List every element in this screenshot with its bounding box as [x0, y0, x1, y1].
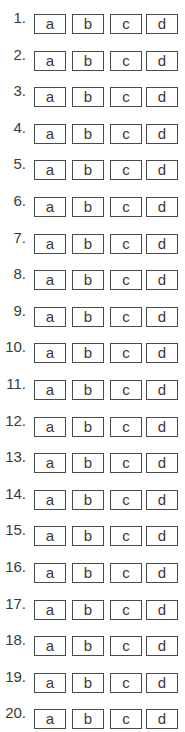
question-number: 3.: [0, 81, 26, 101]
answer-option-d[interactable]: d: [146, 636, 178, 656]
answer-option-b[interactable]: b: [72, 709, 104, 729]
answer-option-d[interactable]: d: [146, 490, 178, 510]
question-number: 20.: [0, 703, 26, 723]
answer-option-d[interactable]: d: [146, 14, 178, 34]
answer-option-d[interactable]: d: [146, 673, 178, 693]
question-row: 12.abcd: [0, 417, 185, 439]
answer-option-a[interactable]: a: [34, 197, 66, 217]
answer-option-c[interactable]: c: [110, 87, 142, 107]
answer-option-a[interactable]: a: [34, 270, 66, 290]
answer-option-b[interactable]: b: [72, 380, 104, 400]
answer-option-b[interactable]: b: [72, 600, 104, 620]
answer-option-a[interactable]: a: [34, 307, 66, 327]
answer-option-a[interactable]: a: [34, 453, 66, 473]
question-number: 14.: [0, 484, 26, 504]
question-number: 9.: [0, 301, 26, 321]
question-row: 18.abcd: [0, 636, 185, 658]
question-row: 14.abcd: [0, 490, 185, 512]
answer-option-c[interactable]: c: [110, 636, 142, 656]
answer-option-a[interactable]: a: [34, 14, 66, 34]
answer-option-a[interactable]: a: [34, 87, 66, 107]
answer-option-c[interactable]: c: [110, 709, 142, 729]
answer-option-b[interactable]: b: [72, 563, 104, 583]
answer-option-c[interactable]: c: [110, 380, 142, 400]
answer-option-c[interactable]: c: [110, 563, 142, 583]
question-number: 15.: [0, 520, 26, 540]
question-number: 19.: [0, 667, 26, 687]
answer-option-d[interactable]: d: [146, 87, 178, 107]
answer-option-c[interactable]: c: [110, 526, 142, 546]
answer-option-d[interactable]: d: [146, 563, 178, 583]
answer-option-c[interactable]: c: [110, 673, 142, 693]
answer-option-b[interactable]: b: [72, 124, 104, 144]
answer-option-d[interactable]: d: [146, 600, 178, 620]
answer-option-a[interactable]: a: [34, 636, 66, 656]
answer-option-d[interactable]: d: [146, 417, 178, 437]
answer-option-b[interactable]: b: [72, 197, 104, 217]
answer-option-a[interactable]: a: [34, 673, 66, 693]
question-row: 15.abcd: [0, 526, 185, 548]
question-row: 16.abcd: [0, 563, 185, 585]
answer-option-c[interactable]: c: [110, 270, 142, 290]
answer-option-c[interactable]: c: [110, 453, 142, 473]
question-number: 12.: [0, 411, 26, 431]
question-row: 4.abcd: [0, 124, 185, 146]
answer-option-b[interactable]: b: [72, 307, 104, 327]
answer-option-b[interactable]: b: [72, 673, 104, 693]
question-row: 3.abcd: [0, 87, 185, 109]
answer-option-a[interactable]: a: [34, 417, 66, 437]
answer-option-d[interactable]: d: [146, 526, 178, 546]
answer-option-c[interactable]: c: [110, 160, 142, 180]
answer-option-d[interactable]: d: [146, 197, 178, 217]
answer-option-b[interactable]: b: [72, 51, 104, 71]
question-row: 6.abcd: [0, 197, 185, 219]
question-row: 2.abcd: [0, 51, 185, 73]
answer-option-a[interactable]: a: [34, 160, 66, 180]
answer-option-d[interactable]: d: [146, 234, 178, 254]
answer-option-a[interactable]: a: [34, 380, 66, 400]
answer-option-c[interactable]: c: [110, 343, 142, 363]
answer-option-d[interactable]: d: [146, 709, 178, 729]
answer-option-b[interactable]: b: [72, 526, 104, 546]
answer-option-c[interactable]: c: [110, 197, 142, 217]
answer-option-a[interactable]: a: [34, 343, 66, 363]
answer-option-b[interactable]: b: [72, 234, 104, 254]
answer-option-c[interactable]: c: [110, 124, 142, 144]
answer-option-c[interactable]: c: [110, 417, 142, 437]
answer-option-a[interactable]: a: [34, 709, 66, 729]
answer-option-c[interactable]: c: [110, 14, 142, 34]
answer-option-a[interactable]: a: [34, 563, 66, 583]
answer-option-d[interactable]: d: [146, 307, 178, 327]
answer-option-a[interactable]: a: [34, 234, 66, 254]
answer-option-b[interactable]: b: [72, 160, 104, 180]
answer-option-b[interactable]: b: [72, 14, 104, 34]
answer-option-b[interactable]: b: [72, 453, 104, 473]
answer-option-c[interactable]: c: [110, 307, 142, 327]
question-number: 4.: [0, 118, 26, 138]
answer-option-a[interactable]: a: [34, 51, 66, 71]
question-row: 7.abcd: [0, 234, 185, 256]
answer-option-a[interactable]: a: [34, 526, 66, 546]
answer-option-d[interactable]: d: [146, 380, 178, 400]
answer-option-d[interactable]: d: [146, 453, 178, 473]
answer-option-a[interactable]: a: [34, 600, 66, 620]
answer-option-b[interactable]: b: [72, 87, 104, 107]
answer-option-b[interactable]: b: [72, 636, 104, 656]
answer-option-d[interactable]: d: [146, 51, 178, 71]
question-number: 16.: [0, 557, 26, 577]
answer-option-c[interactable]: c: [110, 600, 142, 620]
answer-option-c[interactable]: c: [110, 234, 142, 254]
question-row: 13.abcd: [0, 453, 185, 475]
answer-option-b[interactable]: b: [72, 490, 104, 510]
answer-option-b[interactable]: b: [72, 270, 104, 290]
answer-option-d[interactable]: d: [146, 160, 178, 180]
answer-option-d[interactable]: d: [146, 124, 178, 144]
answer-option-d[interactable]: d: [146, 270, 178, 290]
answer-option-b[interactable]: b: [72, 417, 104, 437]
answer-option-c[interactable]: c: [110, 51, 142, 71]
answer-option-d[interactable]: d: [146, 343, 178, 363]
answer-option-b[interactable]: b: [72, 343, 104, 363]
answer-option-a[interactable]: a: [34, 124, 66, 144]
answer-option-a[interactable]: a: [34, 490, 66, 510]
answer-option-c[interactable]: c: [110, 490, 142, 510]
